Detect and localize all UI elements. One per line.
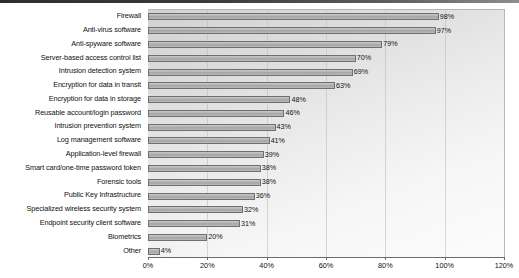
bar-value-label: 38% (262, 179, 276, 186)
bar: 38% (148, 179, 261, 186)
category-label: Forensic tools (0, 174, 145, 188)
category-label: Reusable account/login password (0, 105, 145, 119)
bar: 70% (148, 55, 356, 62)
bar-row: 79% (148, 38, 504, 52)
x-tick-mark (267, 257, 268, 260)
bar-value-label: 79% (383, 41, 397, 48)
bar: 46% (148, 110, 284, 117)
bar: 32% (148, 206, 243, 213)
bar-value-label: 36% (256, 192, 270, 199)
top-border-strip (0, 0, 519, 3)
bar-row: 48% (148, 93, 504, 107)
bar-value-label: 31% (241, 220, 255, 227)
bar-row: 38% (148, 162, 504, 176)
x-tick-label: 120% (495, 262, 514, 269)
category-label: Other (0, 243, 145, 257)
bars-container: 98%97%79%70%69%63%48%46%43%41%39%38%38%3… (148, 10, 504, 258)
bar-row: 46% (148, 106, 504, 120)
x-tick-label: 80% (378, 262, 393, 269)
category-label: Specialized wireless security system (0, 202, 145, 216)
bar-row: 4% (148, 244, 504, 258)
bar: 36% (148, 193, 255, 200)
bar-row: 70% (148, 51, 504, 65)
bar-value-label: 46% (285, 110, 299, 117)
category-label: Endpoint security client software (0, 216, 145, 230)
x-tick-mark (207, 257, 208, 260)
bar: 38% (148, 165, 261, 172)
bar-row: 63% (148, 79, 504, 93)
bar-value-label: 20% (208, 234, 222, 241)
bar-value-label: 38% (262, 165, 276, 172)
category-label: Log management software (0, 133, 145, 147)
bar-row: 43% (148, 120, 504, 134)
bar: 97% (148, 27, 436, 34)
x-tick-label: 0% (143, 262, 154, 269)
x-tick-label: 40% (259, 262, 274, 269)
bar-value-label: 70% (357, 55, 371, 62)
bar: 41% (148, 137, 270, 144)
category-label: Application-level firewall (0, 147, 145, 161)
bar: 4% (148, 248, 160, 255)
bar-row: 39% (148, 148, 504, 162)
x-tick-label: 20% (200, 262, 215, 269)
x-tick-label: 100% (435, 262, 454, 269)
bar-value-label: 41% (271, 137, 285, 144)
bar-value-label: 63% (336, 82, 350, 89)
bar-value-label: 97% (437, 27, 451, 34)
bar-value-label: 98% (440, 13, 454, 20)
x-tick-mark (148, 257, 149, 260)
bar-row: 41% (148, 134, 504, 148)
bar-value-label: 69% (354, 68, 368, 75)
category-label: Intrusion detection system (0, 64, 145, 78)
bar-row: 69% (148, 65, 504, 79)
category-label: Intrusion prevention system (0, 119, 145, 133)
plot-area: 98%97%79%70%69%63%48%46%43%41%39%38%38%3… (148, 9, 505, 258)
bar-value-label: 39% (265, 151, 279, 158)
bar-row: 32% (148, 203, 504, 217)
bar: 79% (148, 41, 382, 48)
category-label: Encryption for data in transit (0, 78, 145, 92)
bar-value-label: 43% (277, 124, 291, 131)
category-label: Smart card/one-time password token (0, 161, 145, 175)
bar-row: 38% (148, 175, 504, 189)
bar: 39% (148, 151, 264, 158)
x-tick-mark (504, 257, 505, 260)
category-label: Encryption for data in storage (0, 92, 145, 106)
category-label: Anti-virus software (0, 23, 145, 37)
bar: 48% (148, 96, 290, 103)
horizontal-bar-chart: FirewallAnti-virus softwareAnti-spyware … (0, 0, 519, 278)
bar: 43% (148, 124, 276, 131)
bar-row: 98% (148, 10, 504, 24)
bar-row: 36% (148, 189, 504, 203)
category-label: Server-based access control list (0, 50, 145, 64)
bar-value-label: 48% (291, 96, 305, 103)
category-axis-labels: FirewallAnti-virus softwareAnti-spyware … (0, 9, 145, 257)
bar-row: 97% (148, 24, 504, 38)
bar: 63% (148, 82, 335, 89)
gridline (504, 10, 505, 258)
bar: 98% (148, 13, 439, 20)
bar: 69% (148, 69, 353, 76)
bar-row: 31% (148, 217, 504, 231)
category-label: Public Key Infrastructure (0, 188, 145, 202)
bar: 31% (148, 220, 240, 227)
bar-row: 20% (148, 231, 504, 245)
category-label: Anti-spyware software (0, 37, 145, 51)
x-tick-mark (445, 257, 446, 260)
bar: 20% (148, 234, 207, 241)
x-tick-label: 60% (319, 262, 334, 269)
x-tick-mark (326, 257, 327, 260)
bar-value-label: 4% (161, 248, 171, 255)
x-tick-mark (385, 257, 386, 260)
bar-value-label: 32% (244, 206, 258, 213)
category-label: Biometrics (0, 230, 145, 244)
category-label: Firewall (0, 9, 145, 23)
